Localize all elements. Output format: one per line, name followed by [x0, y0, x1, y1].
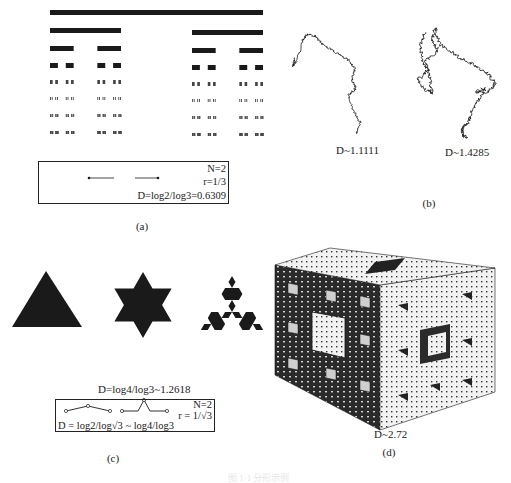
cantor-segment: [241, 99, 242, 102]
panel-b-caption: (b): [399, 197, 459, 209]
cantor-segment: [67, 131, 68, 134]
menger-sponge: [275, 248, 495, 430]
figure-caption: 图 1-1 分形示例: [228, 471, 290, 483]
cantor-segment: [192, 99, 193, 102]
cantor-segment: [193, 133, 194, 136]
cantor-segment: [213, 99, 214, 102]
cantor-segment: [52, 114, 53, 117]
cantor-segment: [99, 97, 100, 100]
cantor-segment: [192, 82, 195, 86]
walk-1-path: [293, 34, 362, 134]
cantor-segment: [66, 114, 67, 117]
cantor-segment: [73, 114, 74, 117]
cantor-segment: [240, 133, 241, 136]
cantor-segment: [56, 131, 57, 134]
cantor-segment: [52, 97, 53, 100]
cantor-segment: [50, 46, 74, 51]
cantor-segment: [118, 80, 121, 84]
cantor-segment: [113, 97, 114, 100]
cantor-segment: [72, 131, 73, 134]
cantor-segment: [72, 114, 73, 117]
cantor-segment: [100, 131, 101, 134]
sponge-left-hole: [312, 312, 345, 358]
cantor-segment: [239, 99, 240, 102]
cantor-segment: [255, 99, 256, 102]
cantor-segment: [198, 116, 199, 119]
cantor-segment: [119, 131, 120, 134]
cantor-segment: [50, 97, 51, 100]
cantor-segment: [103, 97, 104, 100]
panel-d-d-label: D~2.72: [374, 428, 407, 440]
cantor-segment: [255, 82, 258, 86]
koch-snowflake-shape: [201, 276, 263, 330]
sponge-sub-hole: [288, 322, 298, 334]
cantor-segment: [260, 99, 261, 102]
cantor-segment: [239, 48, 263, 53]
sponge-sub-hole: [326, 368, 336, 380]
cantor-segment: [216, 133, 217, 136]
panel-a-n-label: N=2: [206, 163, 226, 174]
cantor-segment: [50, 10, 263, 15]
cantor-segment: [118, 97, 119, 100]
cantor-segment: [192, 30, 263, 35]
cantor-segment: [192, 65, 200, 70]
cantor-segment: [195, 133, 196, 136]
cantor-segment: [198, 133, 199, 136]
panel-a-r-label: r=1/3: [196, 176, 226, 187]
cantor-segment: [66, 80, 69, 84]
cantor-segment: [239, 82, 242, 86]
cantor-segment: [245, 133, 246, 136]
cantor-segment: [68, 131, 69, 134]
cantor-segment: [194, 116, 195, 119]
cantor-segment: [55, 97, 56, 100]
cantor-segment: [193, 116, 194, 119]
cantor-segment: [66, 63, 74, 68]
cantor-segment: [261, 133, 262, 136]
sponge-sub-hole: [360, 380, 370, 392]
cantor-segment: [210, 133, 211, 136]
walk-2-path: [417, 28, 496, 138]
panel-c-caption: (c): [83, 452, 143, 464]
cantor-segment: [210, 116, 211, 119]
cantor-segment: [98, 114, 99, 117]
cantor-segment: [215, 99, 216, 102]
cantor-segment: [73, 97, 74, 100]
sponge-sub-hole: [288, 283, 298, 295]
cantor-segment: [263, 116, 264, 119]
cantor-segment: [240, 116, 241, 119]
cantor-segment: [71, 97, 72, 100]
cantor-segment: [121, 131, 122, 134]
walk-2-label: D~1.4285: [445, 146, 489, 158]
cantor-segment: [74, 131, 75, 134]
cantor-segment: [97, 46, 121, 51]
cantor-segment: [258, 133, 259, 136]
cantor-segment: [119, 114, 120, 117]
cantor-segment: [255, 65, 263, 70]
cantor-segment: [103, 114, 104, 117]
panel-c-d-formula: D = log2/log√3 ~ log4/log3: [58, 420, 174, 431]
cantor-segment: [199, 99, 200, 102]
cantor-segment: [68, 114, 69, 117]
panel-d-caption: (d): [359, 446, 419, 458]
random-walks: [293, 28, 497, 138]
cantor-segment: [97, 80, 100, 84]
cantor-segment: [115, 97, 116, 100]
cantor-segment: [55, 80, 58, 84]
cantor-segment: [98, 131, 99, 134]
cantor-segment: [56, 114, 57, 117]
cantor-segment: [242, 116, 243, 119]
cantor-segment: [208, 82, 211, 86]
cantor-segment: [239, 65, 247, 70]
walk-1-label: D~1.1111: [336, 144, 379, 156]
triangle-shape: [12, 271, 82, 327]
cantor-segment: [208, 116, 209, 119]
cantor-segment: [57, 97, 58, 100]
cantor-segment: [214, 116, 215, 119]
cantor-segment: [58, 131, 59, 134]
panel-c-d-label: D=log4/log3~1.2618: [98, 383, 191, 395]
cantor-segment: [197, 82, 200, 86]
panel-c-r-label: r = 1/√3: [168, 410, 212, 421]
sponge-sub-hole: [360, 334, 370, 346]
cantor-segment: [97, 63, 105, 68]
cantor-segment: [104, 97, 105, 100]
